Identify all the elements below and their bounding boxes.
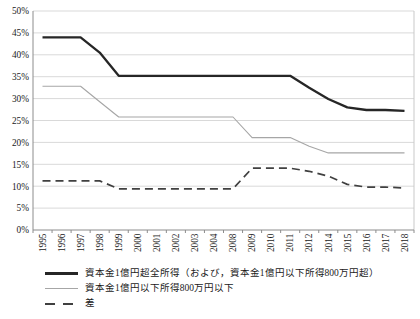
legend-item-over-100m-capital: 資本金1億円超全所得（および，資本金1億円以下所得800万円超） xyxy=(45,266,379,281)
x-axis-labels: 1995199619971998199920002001200220032004… xyxy=(38,233,410,252)
x-axis-label: 2003 xyxy=(190,233,200,252)
y-axis-label: 5% xyxy=(17,203,30,213)
dashed-line-marker xyxy=(45,303,78,305)
thick-solid-line-marker xyxy=(45,272,78,275)
y-axis-label: 25% xyxy=(12,116,29,126)
y-axis-label: 20% xyxy=(12,138,29,148)
x-axis-label: 1997 xyxy=(76,233,86,252)
x-axis-ticks xyxy=(33,230,414,233)
y-axis-label: 35% xyxy=(12,72,29,82)
thin-solid-line-marker xyxy=(45,288,78,289)
x-axis-label: 2017 xyxy=(381,233,391,252)
x-axis-label: 2012 xyxy=(304,233,314,252)
x-axis-label: 2016 xyxy=(362,233,372,252)
y-axis-label: 30% xyxy=(12,94,29,104)
x-axis-label: 2011 xyxy=(285,233,295,252)
chart-legend: 資本金1億円超全所得（および，資本金1億円以下所得800万円超） 資本金1億円以… xyxy=(45,266,379,311)
x-axis-label: 2014 xyxy=(324,233,334,252)
y-axis-label: 45% xyxy=(12,28,29,38)
x-axis-label: 1999 xyxy=(114,233,124,252)
x-axis-label: 2000 xyxy=(133,233,143,252)
y-axis-label: 40% xyxy=(12,50,29,60)
legend-label-under-100m-capital: 資本金1億円以下所得800万円以下 xyxy=(85,281,234,296)
legend-label-difference: 差 xyxy=(85,296,95,311)
y-axis-label: 50% xyxy=(12,6,29,16)
x-axis-label: 2015 xyxy=(343,233,353,252)
x-axis-label: 2002 xyxy=(171,233,181,252)
x-axis-label: 2010 xyxy=(266,233,276,252)
y-axis-label: 10% xyxy=(12,182,29,192)
x-axis-label: 1995 xyxy=(38,233,48,252)
legend-label-over-100m-capital: 資本金1億円超全所得（および，資本金1億円以下所得800万円超） xyxy=(85,266,379,281)
y-axis-label: 0% xyxy=(17,225,30,235)
x-axis-label: 1996 xyxy=(57,233,67,252)
y-axis-label: 15% xyxy=(12,160,29,170)
legend-item-under-100m-capital: 資本金1億円以下所得800万円以下 xyxy=(45,281,379,296)
y-axis-labels: 0%5%10%15%20%25%30%35%40%45%50% xyxy=(12,6,29,235)
x-axis-label: 2009 xyxy=(247,233,257,252)
x-axis-label: 2004 xyxy=(209,233,219,252)
x-axis-label: 1998 xyxy=(95,233,105,252)
x-axis-label: 2018 xyxy=(400,233,410,252)
x-axis-label: 2001 xyxy=(152,233,162,252)
series-line-1 xyxy=(43,86,405,153)
tax-rate-chart-figure: 0%5%10%15%20%25%30%35%40%45%50%199519961… xyxy=(0,0,420,319)
legend-item-difference: 差 xyxy=(45,296,379,311)
x-axis-label: 2008 xyxy=(228,233,238,252)
